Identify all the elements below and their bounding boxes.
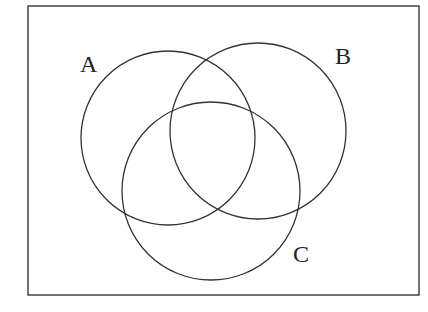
label-b: B <box>335 43 351 69</box>
label-a: A <box>80 51 98 77</box>
label-c: C <box>293 241 309 267</box>
circle-a <box>81 51 255 225</box>
circle-b <box>170 43 346 219</box>
venn-diagram: A B C <box>0 0 428 312</box>
circle-c <box>122 102 300 280</box>
